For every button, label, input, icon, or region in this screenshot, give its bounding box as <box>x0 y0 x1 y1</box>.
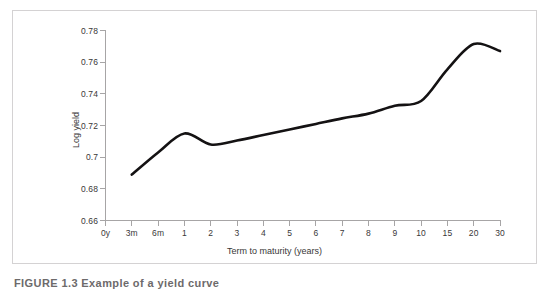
x-tick-label: 8 <box>366 228 371 238</box>
x-tick-label: 10 <box>416 228 426 238</box>
x-tick-label: 4 <box>261 228 266 238</box>
x-tick-label: 6m <box>152 228 164 238</box>
y-tick-label: 0.74 <box>62 89 98 99</box>
x-tick-label: 9 <box>392 228 397 238</box>
figure-caption: FIGURE 1.3 Example of a yield curve <box>14 277 219 289</box>
x-tick-label: 2 <box>208 228 213 238</box>
y-tick-label: 0.68 <box>62 184 98 194</box>
x-tick-label: 5 <box>287 228 292 238</box>
x-tick-label: 3 <box>235 228 240 238</box>
y-axis-title: Log yield <box>71 112 81 148</box>
x-axis-title: Term to maturity (years) <box>0 246 549 256</box>
y-tick-label: 0.7 <box>62 152 98 162</box>
x-tick-label: 7 <box>340 228 345 238</box>
chart-panel-frame <box>12 10 537 264</box>
x-tick-label: 15 <box>443 228 453 238</box>
x-tick-label: 30 <box>495 228 505 238</box>
y-tick-label: 0.76 <box>62 57 98 67</box>
x-tick-label: 3m <box>126 228 138 238</box>
figure-container: 0.780.760.740.720.70.680.66 0y3m6m123456… <box>0 0 549 289</box>
y-tick-label: 0.66 <box>62 216 98 226</box>
x-tick-label: 6 <box>313 228 318 238</box>
x-tick-label: 20 <box>469 228 479 238</box>
x-tick-label: 0y <box>101 228 110 238</box>
y-tick-label: 0.78 <box>62 26 98 36</box>
x-tick-label: 1 <box>182 228 187 238</box>
